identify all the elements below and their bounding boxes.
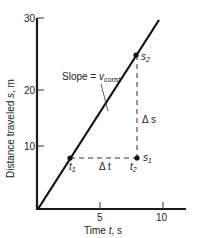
label-delta-s: Δ s <box>142 114 156 125</box>
label-delta-t: Δ t <box>99 161 111 172</box>
distance-line <box>38 20 159 209</box>
point-s2 <box>133 52 138 57</box>
label-s2: s2 <box>141 51 150 63</box>
label-t1: t1 <box>69 161 76 173</box>
y-tick-label-10: 10 <box>24 141 36 152</box>
y-tick-label-30: 30 <box>24 13 36 24</box>
x-tick-label-5: 5 <box>97 212 103 223</box>
y-axis-title: Distance traveled s, m <box>5 79 16 178</box>
slope-label: Slope = vconst <box>62 71 121 83</box>
x-axis-title: Time t, s <box>84 225 122 236</box>
label-s1: s1 <box>143 152 152 164</box>
y-tick-label-20: 20 <box>24 85 36 96</box>
label-t2: t2 <box>130 161 137 173</box>
chart: 30 20 10 5 10 Time t, s Distance travele… <box>0 0 198 238</box>
point-t1 <box>67 155 72 160</box>
x-tick-label-10: 10 <box>156 212 168 223</box>
point-t2-s1 <box>134 155 139 160</box>
